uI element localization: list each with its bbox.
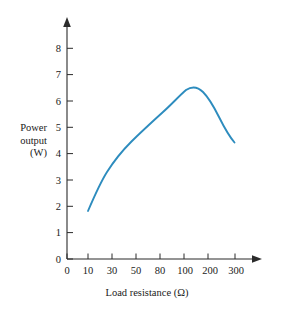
y-tick-label-8: 8 xyxy=(56,43,61,54)
y-tick-label-5: 5 xyxy=(56,122,61,133)
x-tick-label-10: 10 xyxy=(83,265,94,276)
x-tick-label-30: 30 xyxy=(107,265,118,276)
y-tick-label-6: 6 xyxy=(56,96,61,107)
y-axis-caption: Power output (W) xyxy=(20,122,47,159)
y-axis-ticks xyxy=(67,48,73,259)
y-tick-label-1: 1 xyxy=(56,227,61,238)
x-tick-label-300: 300 xyxy=(228,265,244,276)
y-tick-label-2: 2 xyxy=(56,201,61,212)
x-tick-label-100: 100 xyxy=(177,265,193,276)
chart-plot-area: 0 1 2 3 4 5 6 7 8 0 10 30 50 80 xyxy=(0,0,291,312)
x-tick-label-200: 200 xyxy=(202,265,218,276)
x-tick-label-0: 0 xyxy=(64,265,69,276)
x-axis-arrow-icon xyxy=(252,255,262,263)
x-tick-label-50: 50 xyxy=(131,265,142,276)
y-tick-label-4: 4 xyxy=(56,148,62,159)
x-tick-label-80: 80 xyxy=(155,265,166,276)
y-tick-label-0: 0 xyxy=(56,254,61,265)
power-output-chart-figure: 0 1 2 3 4 5 6 7 8 0 10 30 50 80 xyxy=(0,0,291,312)
y-axis-arrow-icon xyxy=(63,17,71,27)
y-tick-label-3: 3 xyxy=(56,175,61,186)
y-tick-label-7: 7 xyxy=(56,69,61,80)
x-axis-caption: Load resistance (Ω) xyxy=(105,287,189,299)
x-axis-ticks xyxy=(67,254,235,260)
y-axis-caption-line-3: (W) xyxy=(30,147,47,159)
y-axis-caption-line-1: Power xyxy=(20,122,47,133)
x-axis-tick-labels: 0 10 30 50 80 100 200 300 xyxy=(64,265,244,276)
y-axis-caption-line-2: output xyxy=(20,135,47,146)
y-axis-tick-labels: 0 1 2 3 4 5 6 7 8 xyxy=(56,43,62,265)
power-output-curve xyxy=(88,88,235,211)
